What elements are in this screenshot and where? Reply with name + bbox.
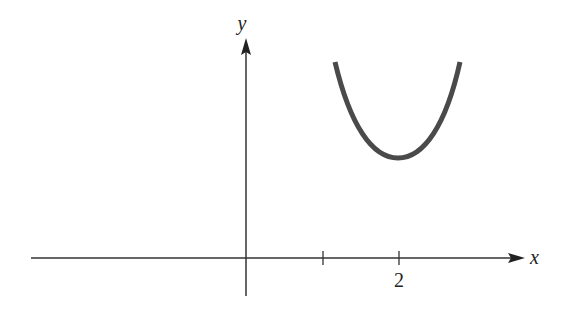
tick-label-2: 2 xyxy=(394,269,404,291)
x-axis-label: x xyxy=(529,246,539,268)
y-axis-label: y xyxy=(236,12,247,35)
parabola-curve xyxy=(335,62,460,158)
graph: 2 x y xyxy=(0,0,564,309)
